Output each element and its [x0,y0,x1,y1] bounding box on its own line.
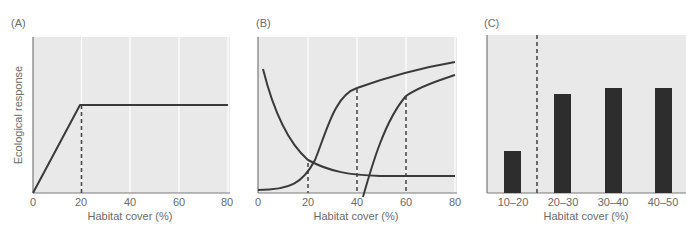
panel-b: (B) 0 20 40 60 80 Habitat cover (%) [255,17,461,222]
panel-a-y-label: Ecological response [12,66,24,164]
svg-text:60: 60 [173,196,185,208]
svg-text:20: 20 [75,196,87,208]
svg-text:20: 20 [302,196,314,208]
svg-text:80: 80 [221,196,233,208]
panel-c: (C) 10–20 20–30 30–40 40–50 Habitat cove… [484,17,686,222]
panel-c-label: (C) [484,17,499,29]
svg-text:40: 40 [351,196,363,208]
panel-a-x-ticks: 0 20 40 60 80 [30,196,233,208]
panel-b-x-label: Habitat cover (%) [314,210,399,222]
svg-text:40: 40 [124,196,136,208]
svg-text:40–50: 40–50 [648,196,679,208]
svg-text:30–40: 30–40 [598,196,629,208]
panel-a-plot-area [33,37,230,193]
ecological-threshold-figure: (A) 0 20 40 60 80 Habitat cover (%) Ecol… [0,0,686,228]
panel-c-x-label: Habitat cover (%) [544,210,629,222]
svg-text:20–30: 20–30 [548,196,579,208]
panel-b-label: (B) [256,17,271,29]
panel-a-label: (A) [11,17,26,29]
svg-text:0: 0 [255,196,261,208]
bar-40-50 [655,88,672,193]
panel-a-x-label: Habitat cover (%) [88,210,173,222]
svg-text:80: 80 [449,196,461,208]
bar-20-30 [554,94,571,193]
bar-30-40 [605,88,622,193]
svg-text:0: 0 [30,196,36,208]
svg-text:10–20: 10–20 [498,196,529,208]
bar-10-20 [504,151,521,193]
panel-a: (A) 0 20 40 60 80 Habitat cover (%) Ecol… [11,17,233,222]
panel-b-x-ticks: 0 20 40 60 80 [255,196,461,208]
svg-text:60: 60 [400,196,412,208]
panel-c-x-ticks: 10–20 20–30 30–40 40–50 [498,196,679,208]
